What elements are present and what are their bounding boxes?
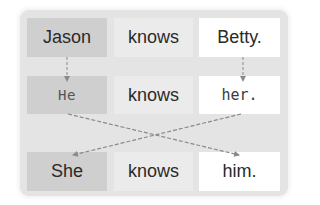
row1-verb: knows <box>128 27 179 48</box>
row1-subject-cell: Jason <box>27 18 107 57</box>
row3-subject: She <box>51 161 83 182</box>
row1-object-cell: Betty. <box>199 18 280 57</box>
row2-verb-cell: knows <box>114 76 193 114</box>
row1-subject: Jason <box>43 27 91 48</box>
row3-subject-cell: She <box>27 152 107 191</box>
row2-subject: He <box>58 87 76 103</box>
row2-object-cell: her. <box>199 76 280 114</box>
row2-subject-cell: He <box>27 76 107 114</box>
row3-verb: knows <box>128 161 179 182</box>
row2-verb: knows <box>128 85 179 106</box>
row3-object-cell: him. <box>199 152 280 191</box>
row1-verb-cell: knows <box>114 18 193 57</box>
row3-verb-cell: knows <box>114 152 193 191</box>
row1-object: Betty. <box>217 27 262 48</box>
row3-object: him. <box>222 161 256 182</box>
row2-object: her. <box>221 86 257 104</box>
